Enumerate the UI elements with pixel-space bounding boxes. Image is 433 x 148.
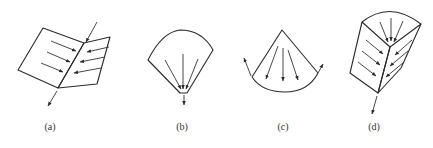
figure-canvas: (a) (b) (c) (d) — [0, 0, 433, 148]
panel-c-outflow-arrow-left — [244, 58, 251, 76]
panel-d-flow-arrow — [362, 51, 380, 65]
panel-a-flow-arrow — [47, 52, 70, 62]
panel-b-label: (b) — [176, 121, 188, 133]
panel-d-label: (d) — [368, 121, 380, 133]
panel-c-label: (c) — [277, 121, 288, 133]
panel-c — [244, 30, 323, 92]
panel-a-left-face — [18, 28, 84, 88]
panel-c-flow-arrow — [266, 46, 278, 79]
panel-b-fan-outline — [148, 30, 213, 93]
panel-d-outflow-arrow — [372, 96, 377, 114]
panel-b-flow-arrow — [165, 60, 181, 89]
panel-a-flow-arrow — [51, 41, 76, 51]
panel-c-outflow-arrow-right — [318, 64, 323, 73]
panel-d-flow-arrow — [358, 62, 376, 76]
panel-a — [18, 22, 110, 106]
panel-a-label: (a) — [44, 121, 55, 133]
panel-c-flow-arrow — [288, 50, 298, 80]
panel-b — [148, 30, 213, 105]
panel-c-sector-arc — [252, 73, 318, 92]
panel-c-sector-outline — [252, 30, 318, 77]
panel-d — [350, 11, 421, 114]
panel-d-flow-arrow — [366, 40, 383, 54]
panel-d-flow-arrow — [395, 40, 412, 55]
panel-a-flow-arrow — [80, 57, 105, 62]
panel-a-flow-arrow — [74, 68, 101, 73]
panel-a-inflow-arrow — [86, 22, 97, 42]
panel-a-flow-arrow — [41, 63, 63, 72]
panel-a-outflow-arrow — [48, 91, 57, 106]
panel-d-top-arc — [362, 11, 421, 24]
panel-a-right-face — [58, 37, 110, 88]
